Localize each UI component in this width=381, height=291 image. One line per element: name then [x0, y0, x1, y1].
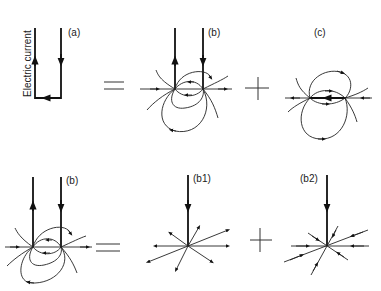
plus-sign-top: [245, 77, 269, 100]
panel-a: Electric current (a): [22, 27, 80, 98]
plus-sign-bottom: [250, 228, 272, 252]
panel-c: (c): [285, 27, 372, 139]
panel-b2-label: (b2): [300, 173, 318, 184]
panel-b2: (b2): [284, 173, 369, 275]
panel-b-bottom-label: (b): [66, 175, 78, 186]
current-loop-wire: [35, 28, 61, 98]
electric-current-label: Electric current: [22, 30, 33, 97]
equals-sign-top: [104, 82, 124, 89]
panel-b1-label: (b1): [193, 173, 211, 184]
equals-sign-bottom: [96, 244, 120, 251]
panel-c-label: (c): [314, 27, 326, 38]
panel-b-top-label: (b): [208, 27, 220, 38]
panel-b-top: (b): [140, 27, 232, 132]
panel-b1: (b1): [148, 173, 228, 270]
panel-a-label: (a): [68, 27, 80, 38]
electric-current-field-diagram: Electric current (a) (b): [0, 0, 381, 291]
panel-b-bottom: (b): [5, 175, 92, 283]
